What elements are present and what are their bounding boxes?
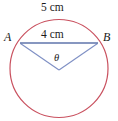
- central-angle-label-theta: θ: [54, 53, 59, 64]
- arc-length-label: 5 cm: [41, 2, 64, 14]
- radius-line-ob: [59, 44, 98, 71]
- point-label-b: B: [103, 31, 110, 43]
- chord-length-label: 4 cm: [41, 29, 64, 41]
- circle-chord-angle-diagram: 5 cm 4 cm A B θ: [0, 0, 118, 121]
- point-label-a: A: [4, 31, 11, 43]
